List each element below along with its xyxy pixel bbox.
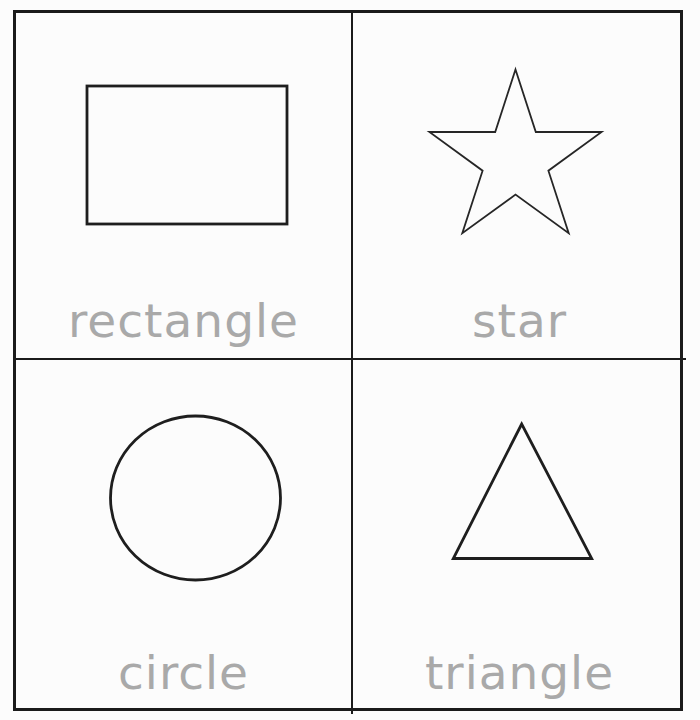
card-label-rectangle: rectangle [16, 297, 351, 344]
card-grid-border [13, 10, 683, 711]
shapes-worksheet-page: rectangle star circle triangle [0, 0, 700, 720]
card-label-triangle: triangle [353, 649, 686, 696]
card-label-star: star [353, 297, 686, 344]
grid-divider-vertical [351, 10, 353, 714]
card-label-circle: circle [16, 649, 351, 696]
grid-divider-horizontal [13, 358, 686, 360]
